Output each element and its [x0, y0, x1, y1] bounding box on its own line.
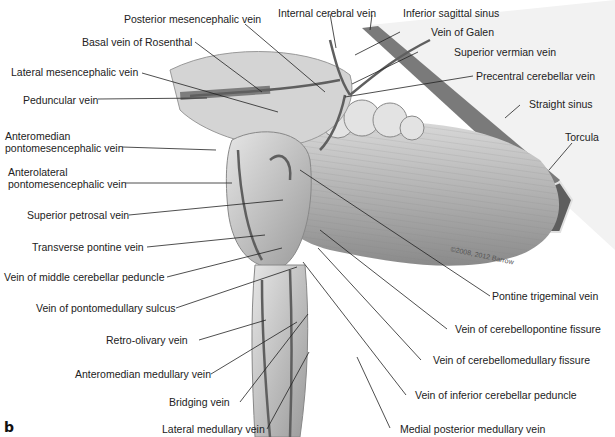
label-torcula: Torcula: [565, 131, 599, 143]
label-internal-cerebral-vein: Internal cerebral vein: [278, 7, 376, 19]
label-anterolateral-line1: Anterolateral: [8, 166, 68, 178]
label-pontine-trigeminal-vein: Pontine trigeminal vein: [492, 290, 598, 302]
label-medial-posterior-medullary-vein: Medial posterior medullary vein: [400, 423, 545, 435]
label-superior-petrosal-vein: Superior petrosal vein: [27, 209, 129, 221]
label-basal-vein-of-rosenthal: Basal vein of Rosenthal: [82, 36, 192, 48]
label-vein-of-inferior-cerebellar-peduncle: Vein of inferior cerebellar peduncle: [415, 389, 577, 401]
panel-letter: b: [4, 419, 14, 435]
label-anterolateral-pontomesencephalic-vein: pontomesencephalic vein: [8, 178, 127, 190]
label-anteromedian-line1: Anteromedian: [5, 130, 70, 142]
label-anteromedian-medullary-vein: Anteromedian medullary vein: [75, 368, 211, 380]
label-inferior-sagittal-sinus: Inferior sagittal sinus: [403, 7, 499, 19]
label-straight-sinus: Straight sinus: [529, 98, 593, 110]
label-vein-of-cerebellopontine-fissure: Vein of cerebellopontine fissure: [455, 323, 601, 335]
label-vein-of-middle-cerebellar-peduncle: Vein of middle cerebellar peduncle: [4, 271, 165, 283]
label-posterior-mesencephalic-vein: Posterior mesencephalic vein: [124, 13, 261, 25]
label-vein-of-pontomedullary-sulcus: Vein of pontomedullary sulcus: [36, 302, 176, 314]
label-lateral-mesencephalic-vein: Lateral mesencephalic vein: [11, 66, 138, 78]
label-vein-of-cerebellomedullary-fissure: Vein of cerebellomedullary fissure: [433, 354, 590, 366]
label-peduncular-vein: Peduncular vein: [23, 94, 98, 106]
label-vein-of-galen: Vein of Galen: [431, 26, 494, 38]
label-superior-vermian-vein: Superior vermian vein: [454, 46, 556, 58]
label-bridging-vein: Bridging vein: [169, 396, 230, 408]
label-lateral-medullary-vein: Lateral medullary vein: [162, 423, 265, 435]
label-precentral-cerebellar-vein: Precentral cerebellar vein: [476, 70, 595, 82]
label-transverse-pontine-vein: Transverse pontine vein: [32, 241, 144, 253]
label-anteromedian-pontomesencephalic-vein: pontomesencephalic vein: [5, 142, 124, 154]
label-retro-olivary-vein: Retro-olivary vein: [106, 334, 188, 346]
anatomical-figure: Posterior mesencephalic vein Internal ce…: [0, 0, 615, 437]
